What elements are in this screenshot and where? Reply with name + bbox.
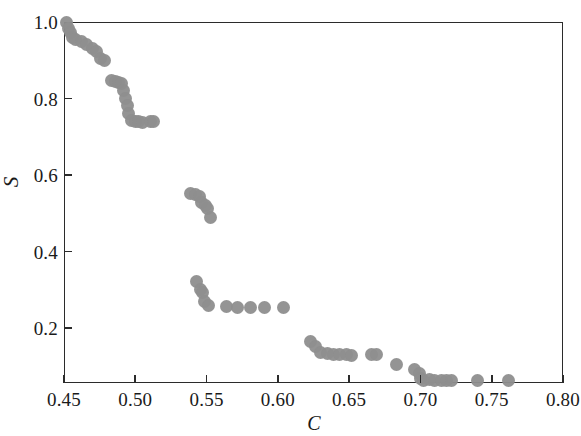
x-axis-tick-label: 0.55 — [190, 390, 224, 409]
x-axis-tick-label: 0.70 — [403, 390, 437, 409]
x-axis-tick-label: 0.75 — [475, 390, 509, 409]
x-axis-tick-label: 0.45 — [47, 390, 81, 409]
x-axis-tick-label: 0.80 — [546, 390, 580, 409]
y-axis-tick-label: 1.0 — [34, 13, 58, 32]
y-axis-tick — [64, 174, 72, 176]
x-axis-tick — [420, 375, 422, 383]
scatter-plot-figure: 0.450.500.550.600.650.700.750.800.20.40.… — [0, 0, 581, 436]
x-axis-tick — [63, 375, 65, 383]
x-axis-tick-label: 0.65 — [332, 390, 366, 409]
plot-frame — [64, 22, 563, 383]
y-axis-tick — [64, 327, 72, 329]
y-axis-label: S — [0, 177, 24, 188]
y-axis-tick — [64, 98, 72, 100]
x-axis-tick-label: 0.60 — [261, 390, 295, 409]
y-axis-tick-label: 0.2 — [34, 319, 58, 338]
y-axis-tick-label: 0.8 — [34, 89, 58, 108]
y-axis-tick — [64, 251, 72, 253]
y-axis-tick-label: 0.4 — [34, 242, 58, 261]
x-axis-label: C — [307, 412, 320, 435]
x-axis-tick — [562, 375, 564, 383]
x-axis-tick — [491, 375, 493, 383]
x-axis-tick — [134, 375, 136, 383]
x-axis-tick — [206, 375, 208, 383]
x-axis-tick-label: 0.50 — [118, 390, 152, 409]
y-axis-tick-label: 0.6 — [34, 166, 58, 185]
x-axis-tick — [348, 375, 350, 383]
x-axis-tick — [277, 375, 279, 383]
